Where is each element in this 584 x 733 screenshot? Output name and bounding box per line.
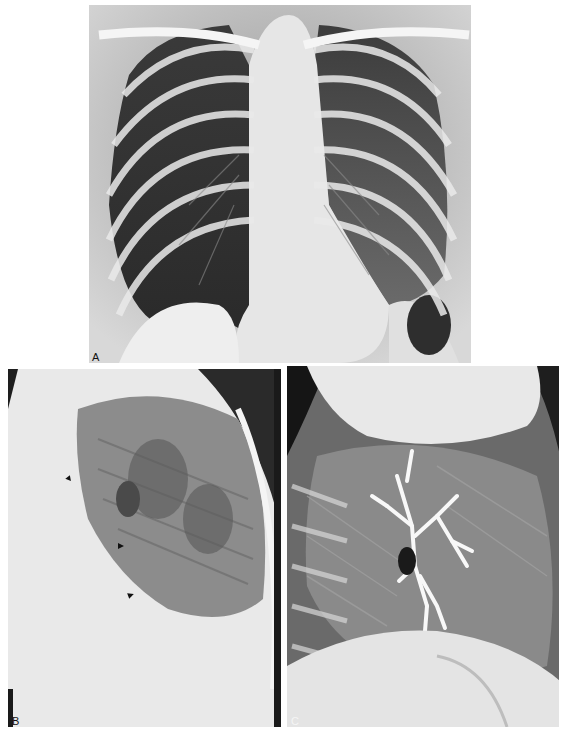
panel-a-frontal-radiograph: A: [89, 5, 471, 363]
panel-c-bronchogram: C: [287, 366, 566, 727]
panel-b-label: B: [12, 715, 19, 727]
panel-a-label: A: [92, 351, 99, 363]
arrowhead-marker-2: [118, 543, 124, 549]
panel-b-lateral-radiograph: B: [8, 369, 281, 727]
frontal-chest-xray-image: [89, 5, 471, 363]
lateral-chest-xray-image: [8, 369, 281, 727]
bronchogram-xray-image: [287, 366, 566, 727]
panel-c-label: C: [291, 715, 299, 727]
